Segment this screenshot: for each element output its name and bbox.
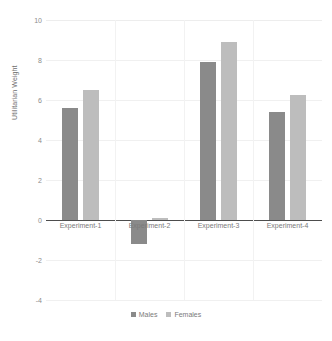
bar-males-experiment-4 bbox=[269, 112, 285, 220]
bar-females-experiment-1 bbox=[83, 90, 99, 220]
bar-males-experiment-3 bbox=[200, 62, 216, 220]
y-tick-label: -4 bbox=[8, 297, 42, 304]
x-category-label: Experiment-4 bbox=[267, 222, 309, 229]
bar-males-experiment-1 bbox=[62, 108, 78, 220]
gridline--4 bbox=[46, 300, 322, 301]
y-tick-label: 4 bbox=[8, 137, 42, 144]
legend-entry-males[interactable]: Males bbox=[131, 311, 158, 318]
bar-females-experiment-3 bbox=[221, 42, 237, 220]
bar-chart: Utilitarian Weight 1086420-2-4 Experimen… bbox=[0, 0, 332, 341]
category-separator bbox=[115, 20, 116, 300]
legend-entry-females[interactable]: Females bbox=[166, 311, 201, 318]
y-tick-label: 2 bbox=[8, 177, 42, 184]
x-axis-category-labels: Experiment-1Experiment-2Experiment-3Expe… bbox=[46, 222, 322, 238]
bar-females-experiment-2 bbox=[152, 218, 168, 220]
y-tick-label: 8 bbox=[8, 57, 42, 64]
x-category-label: Experiment-2 bbox=[129, 222, 171, 229]
y-tick-label: -2 bbox=[8, 257, 42, 264]
x-category-label: Experiment-3 bbox=[198, 222, 240, 229]
chart-legend: MalesFemales bbox=[0, 311, 332, 318]
y-tick-label: 0 bbox=[8, 217, 42, 224]
legend-label: Females bbox=[174, 311, 201, 318]
legend-swatch-icon bbox=[131, 312, 136, 317]
category-separator bbox=[184, 20, 185, 300]
y-axis-tick-labels: 1086420-2-4 bbox=[4, 20, 42, 300]
y-tick-label: 6 bbox=[8, 97, 42, 104]
plot-area bbox=[46, 20, 322, 300]
category-separator bbox=[253, 20, 254, 300]
x-category-label: Experiment-1 bbox=[60, 222, 102, 229]
legend-swatch-icon bbox=[166, 312, 171, 317]
legend-label: Males bbox=[139, 311, 158, 318]
bar-females-experiment-4 bbox=[290, 95, 306, 220]
y-tick-label: 10 bbox=[8, 17, 42, 24]
